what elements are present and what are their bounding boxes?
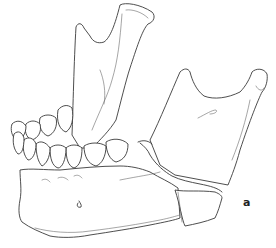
left-ramus xyxy=(72,4,154,148)
right-ramus xyxy=(150,69,267,185)
mandible-body xyxy=(19,166,180,237)
panel-label: a xyxy=(243,196,250,209)
mandible-illustration xyxy=(0,0,276,248)
